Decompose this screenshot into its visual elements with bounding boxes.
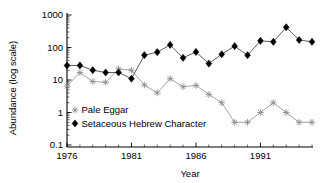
data-point-star bbox=[77, 69, 84, 76]
data-point-star bbox=[141, 82, 148, 89]
data-point-star bbox=[64, 83, 71, 90]
y-tick-label: 100 bbox=[47, 42, 63, 53]
data-point-star bbox=[257, 109, 264, 116]
x-tick-label: 1986 bbox=[185, 150, 206, 161]
data-point-star bbox=[270, 99, 277, 106]
legend-label: Setaceous Hebrew Character bbox=[82, 118, 207, 129]
y-tick-label: 1000 bbox=[42, 9, 63, 20]
y-tick-label: 1 bbox=[58, 107, 63, 118]
data-point-star bbox=[283, 109, 290, 116]
chart-figure: Abundance (log scale) Year 10001001010.1… bbox=[0, 0, 336, 183]
data-point-star bbox=[89, 78, 96, 85]
legend-item: Setaceous Hebrew Character bbox=[72, 118, 206, 129]
data-point-star bbox=[218, 99, 225, 106]
y-tick-label: 0.1 bbox=[50, 139, 63, 150]
data-point-star bbox=[167, 75, 174, 82]
data-point-star bbox=[72, 107, 79, 114]
abundance-log-line-chart: Abundance (log scale) Year 10001001010.1… bbox=[0, 0, 336, 183]
data-point-star bbox=[296, 119, 303, 126]
x-tick-label: 1976 bbox=[56, 150, 77, 161]
data-point-star bbox=[102, 79, 109, 86]
x-axis-title-text: Year bbox=[180, 168, 199, 179]
data-point-star bbox=[206, 91, 213, 98]
x-tick-label: 1981 bbox=[121, 150, 142, 161]
legend-label: Pale Eggar bbox=[82, 104, 129, 115]
data-point-star bbox=[180, 83, 187, 90]
y-axis-title: Abundance (log scale) bbox=[7, 41, 18, 136]
y-tick-label: 10 bbox=[52, 74, 63, 85]
data-point-star bbox=[244, 119, 251, 126]
x-axis-title: Year bbox=[180, 168, 199, 179]
y-axis-title-text: Abundance (log scale) bbox=[7, 41, 18, 136]
data-point-star bbox=[128, 67, 135, 74]
data-point-star bbox=[154, 90, 161, 97]
x-tick-label: 1991 bbox=[250, 150, 271, 161]
data-point-star bbox=[309, 119, 316, 126]
data-point-star bbox=[231, 119, 238, 126]
data-point-star bbox=[193, 82, 200, 89]
